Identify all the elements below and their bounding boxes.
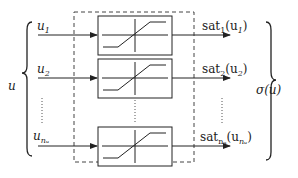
input-1-sub: 1 [45, 26, 50, 35]
output-2-close: ) [243, 62, 248, 76]
input-n-sub: nᵤ [41, 136, 49, 145]
input-label-1: u1 [37, 20, 50, 35]
input-vector-label: u [8, 80, 16, 92]
saturation-block-2 [98, 59, 172, 98]
output-label-1: sat1(u1) [202, 20, 247, 35]
input-label-2: u2 [37, 63, 50, 78]
output-n-close: ) [247, 130, 252, 144]
output-n-arg: (u [226, 130, 238, 144]
saturation-block-n [98, 127, 172, 166]
output-1-arg: (u [225, 19, 237, 33]
output-label-n: satnᵤ(unᵤ) [200, 131, 252, 146]
output-n-argsub: nᵤ [239, 137, 247, 146]
output-1-func: sat [202, 19, 220, 33]
output-2-func: sat [202, 62, 220, 76]
output-1-close: ) [243, 19, 248, 33]
output-vector-label: σ(u) [256, 84, 281, 96]
output-2-arg: (u [225, 62, 237, 76]
input-2-name: u [37, 62, 45, 76]
saturation-block-1 [98, 16, 172, 55]
input-1-name: u [37, 19, 45, 33]
left-brace [22, 22, 32, 156]
input-n-name: u [33, 129, 41, 143]
output-label-2: sat2(u2) [202, 63, 247, 78]
input-label-n: unᵤ [33, 130, 49, 145]
input-2-sub: 2 [45, 69, 50, 78]
output-n-func: sat [200, 130, 218, 144]
